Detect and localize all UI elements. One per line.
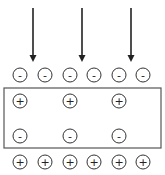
positive-charge-icon: + bbox=[13, 94, 27, 108]
svg-text:+: + bbox=[15, 156, 24, 169]
svg-text:+: + bbox=[114, 95, 123, 108]
positive-charge-icon: + bbox=[63, 94, 77, 108]
svg-text:+: + bbox=[89, 156, 98, 169]
bottom-positive-charges: ++++++ bbox=[13, 155, 150, 169]
negative-charge-icon: - bbox=[112, 68, 126, 82]
svg-text:+: + bbox=[138, 156, 147, 169]
negative-charge-icon: - bbox=[87, 68, 101, 82]
negative-charge-icon: - bbox=[136, 68, 150, 82]
negative-charge-icon: - bbox=[63, 129, 77, 143]
slab-negative-charges: --- bbox=[13, 129, 126, 143]
svg-text:+: + bbox=[65, 95, 74, 108]
svg-text:-: - bbox=[43, 69, 47, 82]
positive-charge-icon: + bbox=[136, 155, 150, 169]
positive-charge-icon: + bbox=[112, 94, 126, 108]
positive-charge-icon: + bbox=[38, 155, 52, 169]
positive-charge-icon: + bbox=[112, 155, 126, 169]
positive-charge-icon: + bbox=[63, 155, 77, 169]
top-negative-charges: ------ bbox=[13, 68, 150, 82]
svg-text:-: - bbox=[18, 130, 22, 143]
svg-text:-: - bbox=[141, 69, 145, 82]
svg-text:+: + bbox=[40, 156, 49, 169]
svg-text:-: - bbox=[92, 69, 96, 82]
dielectric-slab bbox=[4, 88, 161, 148]
svg-text:-: - bbox=[68, 130, 72, 143]
arrowhead-icon bbox=[79, 55, 86, 62]
negative-charge-icon: - bbox=[13, 68, 27, 82]
slab-positive-charges: +++ bbox=[13, 94, 126, 108]
svg-text:-: - bbox=[18, 69, 22, 82]
arrowhead-icon bbox=[128, 55, 135, 62]
negative-charge-icon: - bbox=[38, 68, 52, 82]
svg-text:+: + bbox=[15, 95, 24, 108]
positive-charge-icon: + bbox=[87, 155, 101, 169]
positive-charge-icon: + bbox=[13, 155, 27, 169]
polarization-diagram: ------ +++ --- ++++++ bbox=[0, 0, 165, 175]
svg-text:+: + bbox=[114, 156, 123, 169]
negative-charge-icon: - bbox=[13, 129, 27, 143]
svg-text:-: - bbox=[117, 69, 121, 82]
arrowhead-icon bbox=[30, 55, 37, 62]
svg-text:-: - bbox=[117, 130, 121, 143]
negative-charge-icon: - bbox=[63, 68, 77, 82]
field-arrows bbox=[30, 8, 135, 62]
negative-charge-icon: - bbox=[112, 129, 126, 143]
svg-text:+: + bbox=[65, 156, 74, 169]
svg-text:-: - bbox=[68, 69, 72, 82]
